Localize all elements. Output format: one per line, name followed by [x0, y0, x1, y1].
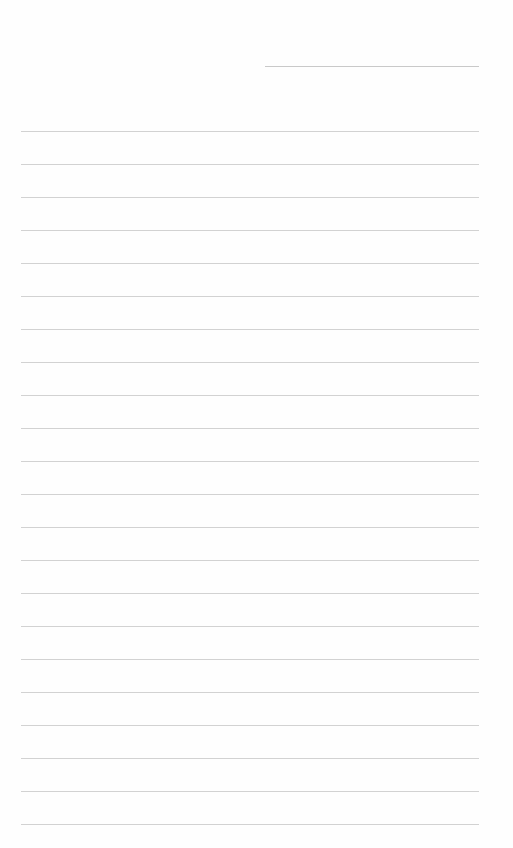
- ruled-line: [21, 692, 479, 693]
- ruled-line: [21, 659, 479, 660]
- ruled-line: [21, 824, 479, 825]
- ruled-line: [21, 296, 479, 297]
- ruled-line: [21, 428, 479, 429]
- header-line: [265, 66, 479, 67]
- ruled-line: [21, 527, 479, 528]
- ruled-line: [21, 131, 479, 132]
- lined-paper-page: [0, 0, 513, 848]
- ruled-line: [21, 395, 479, 396]
- ruled-line: [21, 560, 479, 561]
- ruled-line: [21, 725, 479, 726]
- ruled-line: [21, 197, 479, 198]
- ruled-line: [21, 494, 479, 495]
- ruled-line: [21, 791, 479, 792]
- ruled-line: [21, 626, 479, 627]
- ruled-line: [21, 758, 479, 759]
- ruled-line: [21, 461, 479, 462]
- ruled-line: [21, 362, 479, 363]
- ruled-line: [21, 329, 479, 330]
- ruled-line: [21, 593, 479, 594]
- ruled-line: [21, 164, 479, 165]
- ruled-line: [21, 230, 479, 231]
- ruled-line: [21, 263, 479, 264]
